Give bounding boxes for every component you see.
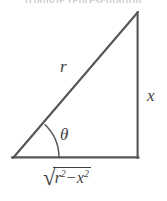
angle-label-theta: θ: [60, 126, 68, 143]
radicand-operator: −: [66, 169, 77, 186]
adjacent-side-label: √r2−x2: [43, 166, 91, 189]
radicand-term2-exponent: 2: [84, 168, 89, 179]
opposite-side-label: x: [147, 87, 155, 104]
radicand-term2-base: x: [77, 169, 84, 186]
right-triangle-figure: triangle representation r x θ √r2−x2: [0, 0, 167, 201]
square-root-expression: √r2−x2: [43, 166, 91, 189]
hypotenuse-line: [13, 12, 138, 158]
radicand: r2−x2: [53, 167, 91, 186]
hypotenuse-label: r: [60, 58, 67, 75]
angle-arc: [45, 124, 59, 158]
